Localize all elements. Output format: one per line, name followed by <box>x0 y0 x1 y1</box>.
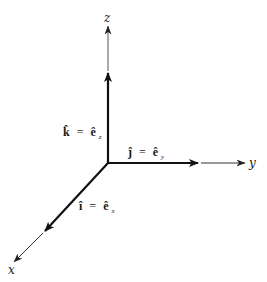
y-axis-label: y <box>248 156 256 170</box>
x-axis-label: x <box>8 263 15 277</box>
x-unit-vector-arrow <box>45 163 108 231</box>
z-axis-label: z <box>103 11 111 25</box>
k-hat-symbol: k̂ <box>63 125 70 139</box>
equals-sign: = <box>77 125 84 139</box>
x-axis-extension-arrow <box>14 233 43 262</box>
i-hat-symbol: î <box>78 199 83 213</box>
y-subscript: y <box>160 153 165 161</box>
k-vector-label: k̂ = ê z <box>63 125 102 141</box>
j-hat-symbol: ĵ <box>127 145 133 159</box>
e-hat-basis: ê <box>153 145 159 159</box>
x-subscript: x <box>110 207 115 215</box>
coordinate-diagram: z y x k̂ = ê z ĵ = ê y î <box>0 0 267 282</box>
i-vector-label: î = ê x <box>78 199 115 215</box>
equals-sign: = <box>89 199 96 213</box>
x-axis: x <box>8 163 108 277</box>
z-subscript: z <box>98 133 102 141</box>
equals-sign: = <box>139 145 146 159</box>
diagram-svg: z y x k̂ = ê z ĵ = ê y î <box>0 0 267 282</box>
z-axis: z <box>103 11 111 163</box>
e-hat-basis: ê <box>103 199 109 213</box>
e-hat-basis: ê <box>90 125 96 139</box>
j-vector-label: ĵ = ê y <box>127 145 165 161</box>
